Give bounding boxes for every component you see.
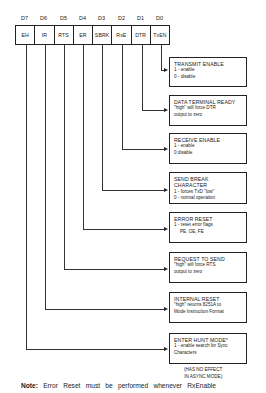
connector-ir-h <box>45 309 165 310</box>
bit-label-d2: D2 <box>112 15 131 21</box>
box-line: 0 disable <box>174 150 243 156</box>
box-line: output to zero <box>174 269 243 275</box>
box-line: Mode Instruction Format <box>174 309 243 315</box>
footnote-line: (HAS NO EFFECT <box>184 367 222 374</box>
footnote-line: IN ASYNC MODE) <box>184 374 222 381</box>
box-request-to-send: REQUEST TO SEND "high" will force RTS ou… <box>169 252 247 283</box>
arrow-icon <box>164 108 168 112</box>
box-error-reset: ERROR RESET 1 - reset error flags PE, OE… <box>169 212 247 243</box>
box-receive-enable: RECEIVE ENABLE 1 - enable 0 disable <box>169 133 247 164</box>
arrow-icon <box>164 307 168 311</box>
box-line: Characters <box>174 350 243 356</box>
connector-txen <box>161 45 162 70</box>
box-line: 0 - normal operation <box>174 195 243 201</box>
arrow-icon <box>164 267 168 271</box>
box-line: output to zero <box>174 112 243 118</box>
bit-cell-ir: IR <box>35 26 54 44</box>
command-register: EH IR RTS ER SBRK RxE DTR TxEN <box>15 25 170 45</box>
connector-eh-h <box>26 349 165 350</box>
bit-cell-txen: TxEN <box>151 26 169 44</box>
connector-eh <box>26 45 27 349</box>
note-label: Note: <box>21 382 38 389</box>
connector-er <box>83 45 84 229</box>
connector-ir <box>45 45 46 309</box>
box-title: SEND BREAK CHARACTER <box>174 176 243 189</box>
bit-cell-rts: RTS <box>55 26 74 44</box>
arrow-icon <box>164 147 168 151</box>
bit-label-d4: D4 <box>73 15 92 21</box>
bit-cell-dtr: DTR <box>132 26 151 44</box>
box-line: PE, OE, FE <box>174 229 243 235</box>
box-line: 0 - disable <box>174 74 243 80</box>
bit-cell-eh: EH <box>16 26 35 44</box>
note: Note: Error Reset must be performed when… <box>21 382 216 389</box>
connector-sbrk-h <box>102 190 165 191</box>
box-data-terminal-ready: DATA TERMINAL READY "high" will force DT… <box>169 95 247 126</box>
note-text: Error Reset must be performed whenever R… <box>43 382 216 389</box>
bit-cell-rxe: RxE <box>112 26 131 44</box>
bit-label-d5: D5 <box>54 15 73 21</box>
bit-label-d1: D1 <box>131 15 150 21</box>
connector-rts <box>64 45 65 269</box>
bit-label-d3: D3 <box>92 15 111 21</box>
connector-sbrk <box>102 45 103 190</box>
arrow-icon <box>164 347 168 351</box>
box-internal-reset: INTERNAL RESET "high" returns 8251A to M… <box>169 292 247 323</box>
connector-rxe-h <box>122 149 165 150</box>
box-enter-hunt-mode: ENTER HUNT MODE* 1 - enable search for S… <box>169 333 247 364</box>
arrow-icon <box>164 188 168 192</box>
bit-label-d6: D6 <box>34 15 53 21</box>
connector-dtr <box>142 45 143 110</box>
connector-rts-h <box>64 269 165 270</box>
box-send-break-character: SEND BREAK CHARACTER 1 - forces TxD "low… <box>169 172 247 204</box>
footnote: (HAS NO EFFECT IN ASYNC MODE) <box>184 367 222 380</box>
bit-label-d7: D7 <box>15 15 34 21</box>
arrow-icon <box>164 227 168 231</box>
bit-cell-er: ER <box>74 26 93 44</box>
connector-er-h <box>83 229 165 230</box>
bit-cell-sbrk: SBRK <box>93 26 112 44</box>
connector-rxe <box>122 45 123 149</box>
arrow-icon <box>164 68 168 72</box>
bit-label-d0: D0 <box>150 15 169 21</box>
box-transmit-enable: TRANSMIT ENABLE 1 - enable 0 - disable <box>169 57 247 87</box>
connector-dtr-h <box>142 110 165 111</box>
